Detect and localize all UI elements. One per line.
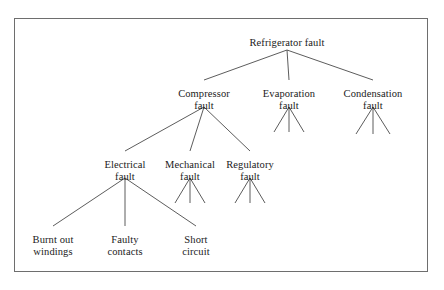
- node-short: Short circuit: [182, 234, 210, 257]
- node-evaporation: Evaporation fault: [263, 88, 315, 111]
- node-root: Refrigerator fault: [250, 37, 325, 49]
- fault-tree-diagram: Refrigerator faultCompressor faultEvapor…: [0, 0, 444, 290]
- node-mechanical: Mechanical fault: [165, 159, 215, 182]
- node-regulatory: Regulatory fault: [226, 159, 274, 182]
- node-faulty: Faulty contacts: [107, 234, 142, 257]
- node-compressor: Compressor fault: [178, 88, 230, 111]
- diagram-frame: [14, 18, 428, 272]
- node-electrical: Electrical fault: [104, 159, 145, 182]
- node-burnt: Burnt out windings: [33, 234, 74, 257]
- node-condensation: Condensation fault: [344, 88, 403, 111]
